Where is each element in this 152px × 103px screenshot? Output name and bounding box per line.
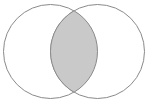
venn-canvas xyxy=(0,0,152,103)
venn-diagram xyxy=(0,0,152,103)
